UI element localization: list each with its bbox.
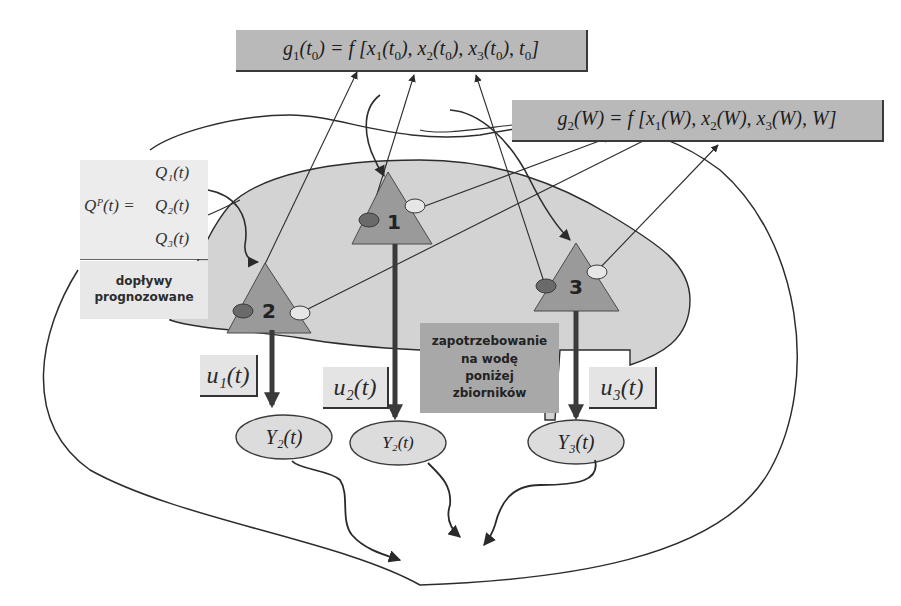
release-label-2: u₂(t) [323, 367, 389, 409]
release-label-1-text: u₁(t) [207, 362, 250, 389]
demand-note-box: zapotrzebowanie na wodę poniżej zbiornik… [420, 323, 559, 413]
inflow-caption-line2: prognozowane [94, 290, 193, 306]
inflow-caption-box: dopływy prognozowane [80, 261, 208, 319]
output-2-label: Y₂(t) [382, 433, 413, 453]
demand-note-line2: na wodę [461, 351, 518, 368]
reservoir-3-dark-node [536, 279, 556, 293]
release-label-2-text: u₂(t) [334, 374, 377, 401]
reservoir-2-dark-node [233, 304, 253, 318]
reservoir-system-diagram: g1(t0) = f[x1(t0), x2(t0), x3(t0), t0] g… [0, 0, 901, 606]
release-label-3: u₃(t) [589, 367, 657, 409]
g2-formula-render: g2(W) = f [x1(W), x2(W), x3(W), W] [558, 107, 837, 134]
g2-formula-box: g2(W) = f[x1(W), x2(W), x3(W), W] g2(W) … [512, 100, 884, 142]
reservoir-1-light-node [405, 199, 425, 213]
reservoir-1-dark-node [359, 213, 379, 227]
output-flow-1 [292, 461, 400, 560]
reservoir-1-label: 1 [387, 210, 401, 234]
demand-note-line4: zbiorników [453, 385, 527, 402]
output-3-label: Y₃(t) [558, 431, 595, 454]
reservoir-3-label: 3 [569, 275, 583, 299]
demand-note-line3: poniżej [465, 368, 514, 385]
inflow-component-1: Q₁(t) [155, 163, 189, 183]
reservoir-2-label: 2 [262, 299, 276, 323]
inflow-component-2: Q₂(t) [155, 196, 189, 216]
reservoir-3-light-node [587, 265, 607, 279]
g1-formula-box: g1(t0) = f[x1(t0), x2(t0), x3(t0), t0] g… [236, 30, 588, 72]
reservoir-2-light-node [290, 306, 310, 320]
release-label-1: u₁(t) [200, 355, 258, 397]
release-label-3-text: u₃(t) [601, 374, 644, 401]
output-1-label: Y₂(t) [266, 426, 303, 449]
output-flow-3 [484, 460, 596, 545]
inflow-caption-line1: dopływy [116, 274, 173, 290]
inflow-vector-lhs: Qᴾ(t) = [84, 196, 135, 216]
inflow-component-3: Q₃(t) [155, 229, 189, 249]
demand-note-line1: zapotrzebowanie [432, 333, 548, 350]
output-flow-2 [428, 463, 460, 537]
g1-formula-render: g1(t0) = f [x1(t0), x2(t0), x3(t0), t0] [283, 37, 539, 64]
